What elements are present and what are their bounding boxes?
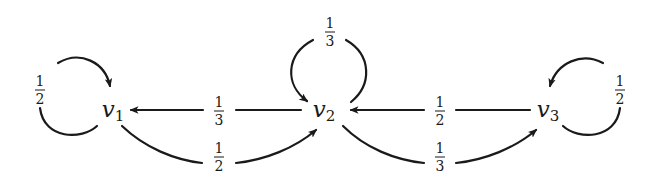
node-v1-base: v <box>102 96 115 122</box>
label-v3-v3: 12 <box>615 74 625 107</box>
edge-v2-v2-right <box>346 40 366 102</box>
label-v2-v3: 13 <box>435 141 445 174</box>
edge-v1-v2-tail <box>122 126 202 163</box>
label-num: 1 <box>36 74 45 89</box>
node-v3-base: v <box>537 96 550 122</box>
label-den: 2 <box>616 92 625 107</box>
edge-v3-v3-upper <box>550 59 603 86</box>
label-num: 1 <box>215 141 224 156</box>
label-v1-v2: 12 <box>214 141 224 174</box>
label-den: 2 <box>215 159 224 174</box>
label-num: 1 <box>326 16 335 31</box>
edge-v1-v1-upper <box>58 58 110 86</box>
label-den: 3 <box>436 159 445 174</box>
node-v2-sub: 2 <box>326 107 336 125</box>
edge-v2-v2-left <box>291 40 313 101</box>
label-den: 2 <box>36 92 45 107</box>
node-v1: v1 <box>102 96 125 125</box>
edge-v1-v2 <box>236 130 316 163</box>
edge-v3-v3-lower <box>563 108 620 135</box>
edge-v1-v1-lower <box>40 108 97 135</box>
label-v3-v2: 12 <box>435 95 445 128</box>
node-v1-sub: 1 <box>115 107 125 125</box>
label-v1-v1: 12 <box>35 74 45 107</box>
label-num: 1 <box>215 95 224 110</box>
label-den: 3 <box>326 34 335 49</box>
label-num: 1 <box>436 95 445 110</box>
node-v2: v2 <box>313 96 336 125</box>
markov-chain-diagram: v1 v2 v3 12 13 12 13 12 12 13 <box>0 0 655 183</box>
label-den: 2 <box>436 113 445 128</box>
node-v3-sub: 3 <box>550 107 560 125</box>
label-num: 1 <box>436 141 445 156</box>
label-den: 3 <box>215 113 224 128</box>
label-v2-v2: 13 <box>325 16 335 49</box>
label-v2-v1: 13 <box>214 95 224 128</box>
node-v3: v3 <box>537 96 560 125</box>
edge-v2-v3-tail <box>343 126 424 163</box>
label-num: 1 <box>616 74 625 89</box>
node-v2-base: v <box>313 96 326 122</box>
edge-v2-v3 <box>456 130 536 163</box>
